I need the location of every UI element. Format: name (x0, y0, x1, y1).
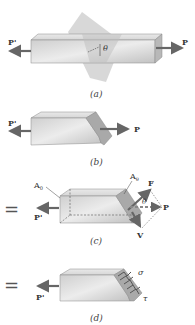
stress-diagram: θ P' P (a) P' P (b) = F θ P V (0, 0, 195, 325)
shear-label: V (136, 230, 144, 240)
left-area-leader (46, 187, 60, 198)
caption-b: (b) (90, 157, 103, 167)
block-top-face (31, 112, 96, 118)
block-top-face (60, 269, 124, 275)
right-area-label: Aθ (129, 172, 139, 182)
left-area-label: A0 (33, 181, 43, 191)
panel-d: = σ τ P' (d) (4, 268, 148, 323)
angle-label: θ (103, 44, 108, 53)
panel-b: P' P (b) (8, 112, 140, 167)
angle-label: θ (142, 198, 147, 206)
right-force-label: P (182, 37, 188, 47)
axial-force-label: P (163, 202, 169, 212)
panel-a: θ P' P (a) (8, 12, 188, 99)
shear-stress-label: τ (143, 294, 148, 303)
left-force-label: P' (34, 212, 42, 222)
left-force-label: P' (8, 37, 16, 47)
caption-a: (a) (90, 89, 103, 99)
right-force-label: P (134, 124, 140, 134)
equals-sign: = (4, 199, 19, 220)
left-force-label: P' (36, 292, 44, 302)
caption-d: (d) (90, 313, 103, 323)
equals-sign: = (4, 275, 19, 296)
resultant-label: F (148, 178, 154, 188)
normal-stress-label: σ (138, 268, 144, 277)
panel-c: = F θ P V A0 Aθ P' (c) (4, 172, 169, 246)
left-force-label: P' (8, 118, 16, 128)
caption-c: (c) (90, 236, 103, 246)
